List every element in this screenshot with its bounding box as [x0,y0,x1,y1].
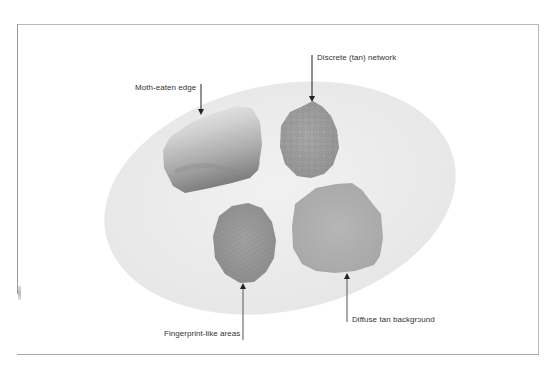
dermoscopy-diagram [0,0,558,374]
label-diffuse-tan-background: Diffuse tan backgrɔund [352,315,435,324]
label-moth-eaten-edge: Moth-eaten edge [135,83,196,92]
skin-ellipse [82,50,477,345]
label-fingerprint-like-areas: Fingerprint-like areas [164,329,240,338]
label-discrete-network: Discrete (tan) network [317,53,396,62]
